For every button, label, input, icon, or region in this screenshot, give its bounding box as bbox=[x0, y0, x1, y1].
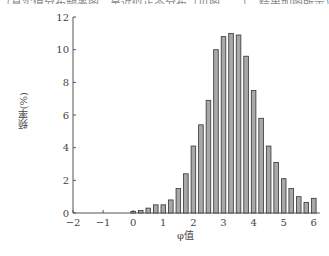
histogram-bar bbox=[236, 35, 241, 213]
y-tick-label: 12 bbox=[56, 12, 69, 23]
x-tick-label: −2 bbox=[66, 217, 81, 228]
y-tick-label: 4 bbox=[63, 142, 69, 153]
histogram-bar bbox=[296, 197, 301, 213]
histogram-bar bbox=[221, 37, 226, 213]
y-tick-label: 10 bbox=[56, 44, 69, 55]
histogram-bar bbox=[199, 125, 204, 213]
histogram-bar bbox=[244, 56, 249, 213]
histogram-bar bbox=[304, 202, 309, 213]
histogram-bar bbox=[312, 198, 317, 213]
y-tick-label: 8 bbox=[63, 77, 69, 88]
x-tick-label: 4 bbox=[250, 217, 256, 228]
y-tick-label: 6 bbox=[63, 110, 69, 121]
histogram-bar bbox=[259, 118, 264, 213]
histogram-bar bbox=[266, 146, 271, 213]
x-axis-label: φ值 bbox=[177, 227, 194, 242]
histogram-bar bbox=[184, 174, 189, 213]
histogram-bar bbox=[131, 211, 136, 213]
histogram-bar bbox=[281, 179, 286, 213]
histogram-bar bbox=[153, 205, 158, 213]
y-axis-label: 频率(%) bbox=[16, 92, 31, 129]
y-tick-label: 2 bbox=[63, 175, 69, 186]
histogram-bar bbox=[274, 162, 279, 213]
bars bbox=[131, 33, 316, 213]
histogram-bar bbox=[176, 189, 181, 213]
x-tick-label: −1 bbox=[96, 217, 111, 228]
histogram-bar bbox=[214, 50, 219, 213]
histogram-bar bbox=[251, 91, 256, 213]
histogram-bar bbox=[169, 200, 174, 213]
histogram-bar bbox=[161, 205, 166, 213]
histogram-bar bbox=[146, 208, 151, 213]
x-tick-label: 1 bbox=[160, 217, 166, 228]
histogram-bar bbox=[206, 100, 211, 213]
histogram-bar bbox=[289, 189, 294, 213]
histogram-bar bbox=[191, 146, 196, 213]
histogram-bar bbox=[229, 33, 234, 213]
x-tick-label: 5 bbox=[281, 217, 287, 228]
histogram-bar bbox=[138, 211, 143, 213]
histogram-chart: 024681012−2−10123456 bbox=[0, 0, 329, 256]
x-tick-label: 6 bbox=[311, 217, 317, 228]
x-tick-label: 0 bbox=[130, 217, 136, 228]
x-tick-label: 3 bbox=[220, 217, 226, 228]
